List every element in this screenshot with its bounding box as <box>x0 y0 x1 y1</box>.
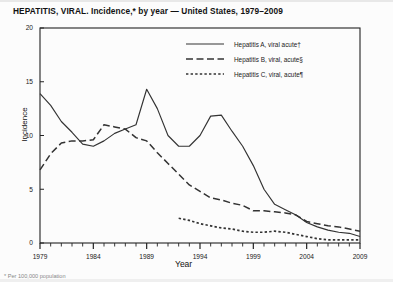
svg-text:1989: 1989 <box>139 253 154 260</box>
chart-footnote: * Per 100,000 population <box>4 273 66 279</box>
legend-label-0: Hepatitis A, viral acute† <box>234 41 301 49</box>
x-tick-labels: 1979198419891994199920042009 <box>33 253 368 260</box>
axis-ticks <box>40 28 360 249</box>
series-line-2 <box>179 218 360 240</box>
series-line-0 <box>40 89 360 236</box>
legend-label-1: Hepatitis B, viral, acute§ <box>234 56 303 64</box>
svg-text:0: 0 <box>29 239 33 246</box>
svg-text:15: 15 <box>26 78 34 85</box>
svg-text:5: 5 <box>29 186 33 193</box>
svg-text:1999: 1999 <box>246 253 261 260</box>
svg-text:1984: 1984 <box>86 253 101 260</box>
svg-text:2004: 2004 <box>299 253 314 260</box>
x-axis-label: Year <box>175 259 192 269</box>
svg-text:1994: 1994 <box>193 253 208 260</box>
y-axis-label: Incidence <box>20 95 29 155</box>
chart-svg: 05101520 1979198419891994199920042009 He… <box>0 0 393 282</box>
chart-legend: Hepatitis A, viral acute†Hepatitis B, vi… <box>186 41 304 79</box>
legend-label-2: Hepatitis C, viral, acute¶ <box>234 71 304 79</box>
data-series-layer <box>40 89 360 240</box>
plot-area: 05101520 1979198419891994199920042009 He… <box>0 0 393 282</box>
svg-text:20: 20 <box>26 24 34 31</box>
series-line-1 <box>40 125 360 231</box>
svg-text:2009: 2009 <box>353 253 368 260</box>
chart-page: HEPATITIS, VIRAL. Incidence,* by year — … <box>0 0 393 282</box>
svg-text:1979: 1979 <box>33 253 48 260</box>
